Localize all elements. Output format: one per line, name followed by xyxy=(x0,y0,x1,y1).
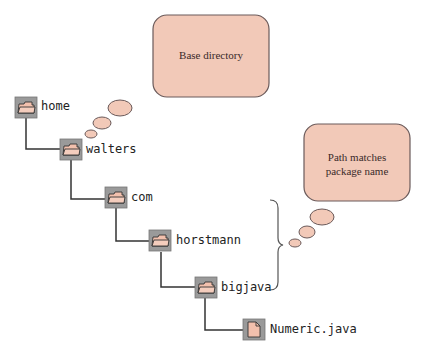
node-label-bigjava[interactable]: bigjava xyxy=(221,280,272,294)
callout-package-text: Path matches package name xyxy=(304,150,410,178)
connector-com-horstmann xyxy=(116,208,149,241)
node-label-com[interactable]: com xyxy=(131,190,153,204)
file-icon-numeric-java[interactable] xyxy=(243,319,265,340)
callout-base-directory xyxy=(85,15,269,138)
node-label-home[interactable]: home xyxy=(41,99,70,113)
callout-base-directory-text: Base directory xyxy=(153,48,269,62)
callout-package-name xyxy=(289,124,410,247)
node-label-walters[interactable]: walters xyxy=(86,142,137,156)
callout-package-line2: package name xyxy=(304,164,410,178)
callout-package-line1: Path matches xyxy=(304,150,410,164)
connector-home-walters xyxy=(26,117,60,149)
folder-icon-walters[interactable] xyxy=(60,139,82,160)
folder-icon-com[interactable] xyxy=(105,187,127,208)
connector-horstmann-bigjava xyxy=(161,252,195,287)
brace-icon xyxy=(270,200,283,290)
node-label-horstmann[interactable]: horstmann xyxy=(176,233,241,247)
folder-icon-horstmann[interactable] xyxy=(149,230,171,251)
connector-walters-com xyxy=(71,160,105,199)
folder-icon-home[interactable] xyxy=(15,97,37,118)
connector-bigjava-numeric xyxy=(205,298,243,330)
folder-icon-bigjava[interactable] xyxy=(195,277,217,298)
node-label-numeric-java[interactable]: Numeric.java xyxy=(270,322,357,336)
